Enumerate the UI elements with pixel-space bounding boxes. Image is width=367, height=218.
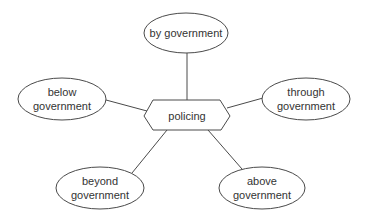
ellipse-shape xyxy=(56,167,144,209)
node-label-line-1: through xyxy=(287,86,324,98)
policing-diagram: policing by government below government … xyxy=(0,0,367,218)
node-label: by government xyxy=(150,27,223,39)
node-through-government: through government xyxy=(262,78,350,120)
node-by-government: by government xyxy=(144,13,228,53)
center-node-policing: policing xyxy=(144,100,230,130)
edge-policing-below xyxy=(106,100,147,111)
node-label-line-2: government xyxy=(233,189,291,201)
ellipse-shape xyxy=(262,78,350,120)
edge-policing-through xyxy=(227,98,263,108)
ellipse-shape xyxy=(18,78,106,120)
ellipse-shape xyxy=(219,167,305,209)
node-above-government: above government xyxy=(219,167,305,209)
node-beyond-government: beyond government xyxy=(56,167,144,209)
node-label-line-1: below xyxy=(48,86,77,98)
node-label-line-2: government xyxy=(71,189,129,201)
edge-policing-above xyxy=(208,130,242,169)
node-below-government: below government xyxy=(18,78,106,120)
node-label-line-1: beyond xyxy=(82,175,118,187)
node-label-line-2: government xyxy=(33,100,91,112)
edge-policing-beyond xyxy=(132,130,167,173)
node-label-line-2: government xyxy=(277,100,335,112)
node-label-line-1: above xyxy=(247,175,277,187)
center-node-label: policing xyxy=(168,110,205,122)
